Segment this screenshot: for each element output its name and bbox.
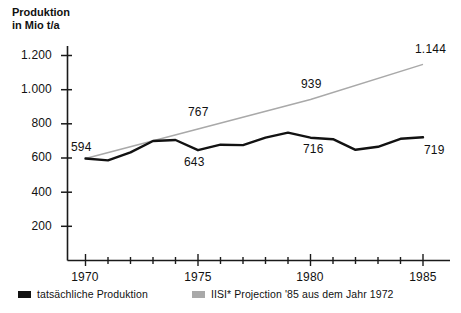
data-label-719: 719: [424, 143, 445, 157]
legend-swatch-projection-icon: [192, 291, 205, 298]
y-tick-label-800: 800: [6, 116, 52, 130]
y-tick-label-1200: 1.200: [6, 48, 52, 62]
chart-container: Produktionin Mio t/a: [0, 0, 461, 313]
data-label-939: 939: [301, 77, 322, 91]
x-tick-label-1975: 1975: [173, 270, 223, 284]
x-tick-label-1970: 1970: [60, 270, 110, 284]
y-tick-label-400: 400: [6, 185, 52, 199]
legend-label-actual: tatsächliche Produktion: [37, 288, 148, 300]
y-tick-label-200: 200: [6, 219, 52, 233]
legend-swatch-actual-icon: [18, 291, 31, 298]
data-label-1144: 1.144: [415, 42, 446, 56]
data-label-767: 767: [188, 105, 209, 119]
y-tick-label-600: 600: [6, 150, 52, 164]
data-label-594: 594: [71, 140, 92, 154]
x-tick-label-1985: 1985: [398, 270, 448, 284]
legend-entry-actual: tatsächliche Produktion: [18, 288, 148, 300]
legend-label-projection: IISI* Projection '85 aus dem Jahr 1972: [211, 288, 394, 300]
series-line-actual: [86, 133, 424, 161]
chart-plot-area: [0, 0, 461, 313]
legend-entry-projection: IISI* Projection '85 aus dem Jahr 1972: [192, 288, 394, 300]
x-tick-label-1980: 1980: [285, 270, 335, 284]
series-line-projection: [86, 64, 424, 158]
y-tick-label-1000: 1.000: [6, 82, 52, 96]
data-label-643: 643: [184, 155, 205, 169]
data-label-716: 716: [303, 142, 324, 156]
chart-legend: tatsächliche Produktion IISI* Projection…: [18, 288, 394, 300]
